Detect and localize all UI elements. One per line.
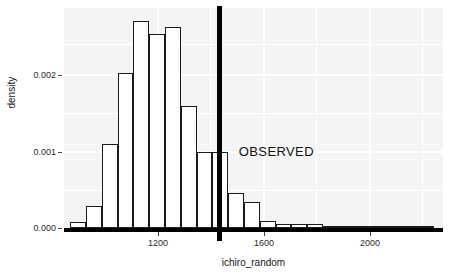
x-tick-label-1200: 1200 xyxy=(138,238,178,248)
plot-panel xyxy=(64,8,443,231)
histogram-bar xyxy=(118,73,134,228)
x-axis-baseline xyxy=(64,228,443,232)
x-tick-mark-1200 xyxy=(158,232,159,236)
x-tick-mark-2000 xyxy=(370,232,371,236)
histogram-bar xyxy=(260,221,276,228)
x-tick-label-1600: 1600 xyxy=(244,238,284,248)
x-tick-mark-1600 xyxy=(264,232,265,236)
histogram-bar xyxy=(244,202,260,228)
observed-vline xyxy=(217,6,222,241)
histogram-bar xyxy=(149,34,165,228)
y-tick-label-0.000: 0.000 xyxy=(20,223,56,233)
y-tick-label-0.002: 0.002 xyxy=(20,70,56,80)
histogram-bar xyxy=(228,193,244,228)
density-histogram-chart: density 0.002 0.001 0.000 OBSERVED 1200 … xyxy=(0,0,456,278)
observed-label: OBSERVED xyxy=(239,144,314,159)
y-tick-label-0.001: 0.001 xyxy=(20,147,56,157)
y-tick-mark-0.001 xyxy=(58,152,62,153)
histogram-bar xyxy=(181,106,197,228)
histogram-bar xyxy=(165,27,181,228)
y-tick-mark-0.002 xyxy=(58,75,62,76)
x-axis-title: ichiro_random xyxy=(64,257,443,268)
histogram-bar xyxy=(133,21,149,228)
histogram-bar xyxy=(86,206,102,228)
x-tick-label-2000: 2000 xyxy=(350,238,390,248)
histogram-bar xyxy=(102,144,118,228)
histogram-bars xyxy=(64,8,443,231)
y-axis-title: density xyxy=(6,93,17,109)
y-tick-mark-0.000 xyxy=(58,228,62,229)
histogram-bar xyxy=(197,152,213,228)
